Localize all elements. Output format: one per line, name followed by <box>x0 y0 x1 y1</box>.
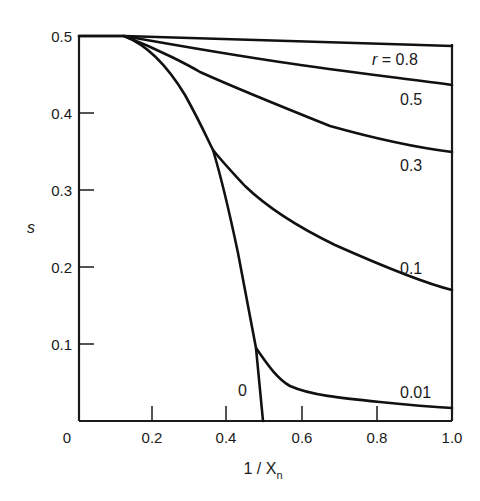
x-tick-label: 0.6 <box>292 429 313 446</box>
y-tick-label: 0.3 <box>51 182 72 199</box>
x-tick-label: 1.0 <box>442 429 463 446</box>
y-tick-label: 0.2 <box>51 259 72 276</box>
x-axis-title-sub: n <box>276 469 282 481</box>
r-value-0.8: = 0.8 <box>377 51 418 68</box>
curve-label-r-0.5: 0.5 <box>400 91 422 108</box>
curve-label-r-0.8: r = 0.8 <box>372 51 418 68</box>
x-tick-label: 0 <box>63 429 71 446</box>
x-tick-label: 0.2 <box>142 429 163 446</box>
curve-label-r-0: 0 <box>238 382 247 399</box>
y-ticks <box>79 113 94 344</box>
y-tick-label: 0.5 <box>51 28 72 45</box>
curve-r-0 <box>124 36 263 421</box>
x-axis-title: 1 / Xn <box>243 460 282 481</box>
chart: 0.5 0.4 0.3 0.2 0.1 0 0.2 0.4 0.6 0.8 1.… <box>0 0 480 501</box>
y-tick-label: 0.1 <box>51 336 72 353</box>
y-axis-title: s <box>27 219 35 236</box>
x-axis-title-main: 1 / X <box>243 460 276 477</box>
x-ticks <box>152 406 377 421</box>
curves <box>79 36 452 421</box>
curve-label-r-0.1: 0.1 <box>400 260 422 277</box>
y-tick-label: 0.4 <box>51 105 72 122</box>
curve-label-r-0.3: 0.3 <box>400 157 422 174</box>
curve-label-r-0.01: 0.01 <box>400 384 431 401</box>
x-tick-label: 0.4 <box>216 429 237 446</box>
x-tick-label: 0.8 <box>367 429 388 446</box>
